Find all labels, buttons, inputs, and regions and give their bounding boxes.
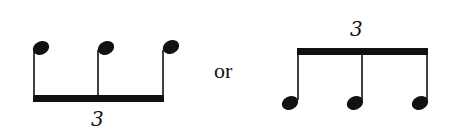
separator-text: or bbox=[214, 60, 232, 82]
beam bbox=[33, 95, 164, 102]
triplet-notation-diagram: 3 or 3 bbox=[0, 0, 449, 130]
left-tuplet-number: 3 bbox=[91, 109, 104, 129]
right-triplet-group bbox=[280, 48, 431, 112]
right-tuplet-number: 3 bbox=[350, 19, 363, 39]
